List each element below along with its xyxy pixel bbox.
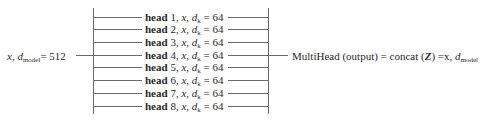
head-2-in-line <box>93 29 142 30</box>
input-connector <box>76 55 93 56</box>
head-8-out-line <box>228 106 268 107</box>
head-4-in-line <box>93 55 142 56</box>
head-4-out-line <box>228 55 268 56</box>
head-6-out-line <box>228 80 268 81</box>
head-8-label: head 8, x, dk = 64 <box>145 100 223 112</box>
head-3-out-line <box>228 42 268 43</box>
head-4-label: head 4, x, dk = 64 <box>145 49 223 61</box>
output-dim-subscript: model <box>461 56 479 64</box>
input-dim-value: = 512 <box>40 50 65 62</box>
head-2-label: head 2, x, dk = 64 <box>145 23 223 35</box>
head-3-in-line <box>93 42 142 43</box>
head-1-label: head 1, x, dk = 64 <box>145 11 223 23</box>
output-prefix: MultiHead (output) = concat ( <box>292 50 425 62</box>
head-7-out-line <box>228 93 268 94</box>
input-label: x, dmodel= 512 <box>7 50 66 62</box>
head-8-in-line <box>93 106 142 107</box>
head-5-label: head 5, x, dk = 64 <box>145 61 223 73</box>
output-suffix: ) =x, <box>431 50 455 62</box>
head-6-in-line <box>93 80 142 81</box>
output-label: MultiHead (output) = concat (Z) =x, dmod… <box>292 50 478 62</box>
head-7-in-line <box>93 93 142 94</box>
merge-bar <box>268 8 269 114</box>
head-5-out-line <box>228 67 268 68</box>
input-dim-subscript: model <box>23 56 41 64</box>
head-7-label: head 7, x, dk = 64 <box>145 87 223 99</box>
split-bar <box>93 8 94 114</box>
head-6-label: head 6, x, dk = 64 <box>145 74 223 86</box>
head-3-label: head 3, x, dk = 64 <box>145 36 223 48</box>
head-5-in-line <box>93 67 142 68</box>
head-2-out-line <box>228 29 268 30</box>
head-1-in-line <box>93 17 142 18</box>
output-connector <box>268 55 288 56</box>
input-var: x <box>7 50 12 62</box>
head-1-out-line <box>228 17 268 18</box>
